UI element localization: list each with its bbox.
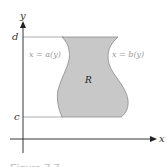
tick-c-label: c [14, 111, 20, 122]
left-curve-label: x = a(y) [29, 50, 61, 59]
y-axis-arrow-icon [20, 21, 26, 28]
region-r-shape [57, 37, 128, 117]
right-curve-label: x = b(y) [112, 50, 144, 59]
region-label: R [84, 75, 92, 85]
x-axis-label: x [159, 133, 165, 144]
region-diagram: y x d c x = a(y) x = b(y) R Figure 7.7 [0, 0, 167, 167]
diagram-svg: y x d c x = a(y) x = b(y) R Figure 7.7 [0, 0, 167, 167]
figure-caption: Figure 7.7 [10, 162, 60, 167]
y-axis-label: y [19, 10, 26, 21]
tick-d-label: d [12, 31, 18, 42]
x-axis-arrow-icon [150, 136, 157, 142]
